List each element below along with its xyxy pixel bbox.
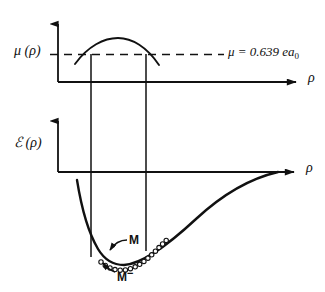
- energy-curve-m: [77, 172, 278, 265]
- lower-x-axis-label: ρ: [306, 161, 313, 175]
- curve-label-m-minus: M−: [117, 268, 133, 283]
- curve-label-m: M: [129, 234, 139, 246]
- curve-label-m-minus-text: M: [117, 270, 127, 284]
- upper-x-axis-label: ρ: [308, 71, 315, 85]
- lower-panel: [58, 121, 294, 272]
- lower-y-axis-label: ℰ (ρ): [14, 136, 42, 150]
- mu-value-annotation: μ = 0.639 ea0: [228, 45, 299, 61]
- upper-y-axis-label: μ (ρ): [14, 44, 41, 58]
- mu-value-text: μ = 0.639 ea: [228, 44, 295, 59]
- mu-value-subscript: 0: [295, 51, 300, 61]
- curve-label-m-minus-superscript: −: [127, 267, 133, 279]
- m-leader-arrow: [110, 240, 127, 250]
- vertical-guide-lines: [91, 54, 146, 257]
